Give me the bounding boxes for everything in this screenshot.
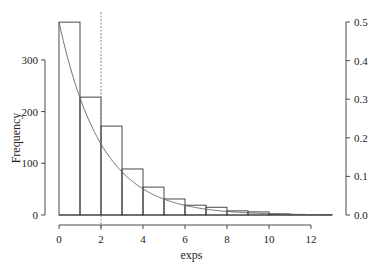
histogram-bar <box>80 97 101 215</box>
x-tick-label: 8 <box>224 233 230 245</box>
x-tick-label: 6 <box>182 233 188 245</box>
x-tick-label: 2 <box>98 233 104 245</box>
x-axis-title: exps <box>181 248 203 262</box>
y-right-tick-label: 0.1 <box>354 170 368 182</box>
x-tick-label: 4 <box>140 233 146 245</box>
histogram-bar <box>164 199 185 215</box>
y-tick-label: 200 <box>22 106 39 118</box>
x-tick-label: 10 <box>264 233 276 245</box>
y-right-tick-label: 0.0 <box>354 209 368 221</box>
chart-canvas: 01002003000.00.10.20.30.40.5024681012exp… <box>0 0 379 266</box>
histogram-bar <box>101 126 122 215</box>
histogram-chart: 01002003000.00.10.20.30.40.5024681012exp… <box>0 0 379 266</box>
histogram-bar <box>122 169 143 215</box>
y-right-tick-label: 0.4 <box>354 55 368 67</box>
y-right-tick-label: 0.2 <box>354 132 368 144</box>
y-tick-label: 100 <box>22 157 39 169</box>
x-tick-label: 12 <box>306 233 317 245</box>
density-curve <box>59 22 332 215</box>
x-tick-label: 0 <box>56 233 62 245</box>
y-right-tick-label: 0.5 <box>354 16 368 28</box>
histogram-bar <box>59 22 80 215</box>
y-right-tick-label: 0.3 <box>354 93 368 105</box>
y-axis-title: Frequency <box>9 113 23 164</box>
histogram-bar <box>185 205 206 215</box>
y-tick-label: 0 <box>33 209 39 221</box>
y-tick-label: 300 <box>22 54 39 66</box>
